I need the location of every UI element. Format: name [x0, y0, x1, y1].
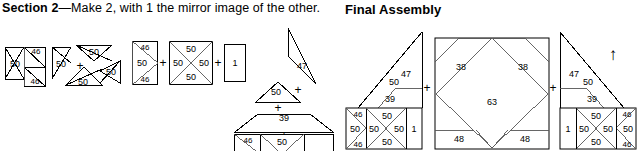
- final-right-50-bottom: 50: [591, 138, 601, 147]
- final-left-50-mid-left: 50: [369, 125, 379, 134]
- step4-row-50-mid-right: 50: [291, 151, 301, 152]
- final-left-46-top: 46: [354, 110, 363, 119]
- final-assembly-heading: Final Assembly: [345, 2, 441, 17]
- final-center-geometry: [434, 28, 550, 151]
- final-left-50-top: 50: [382, 112, 392, 121]
- final-right-unit: 47 50 39 1 50 50 50 50 46 50 46: [558, 30, 638, 151]
- step4-row-50-top: 50: [277, 138, 287, 147]
- step2-label-50-bottom: 50: [78, 78, 88, 87]
- step2-pinwheel-unit: 50 50 50 50 +: [50, 39, 122, 87]
- final-center-38-right: 38: [518, 63, 528, 72]
- step2-label-50-top: 50: [89, 48, 99, 57]
- final-right-50-top: 50: [591, 112, 601, 121]
- step4-plus-a: +: [294, 84, 301, 96]
- step1-label-46-bottom: 46: [31, 77, 40, 86]
- step3-a-label-46-top: 46: [141, 43, 150, 52]
- final-left-unit: 47 50 39 46 50 46 50 50 50 50 1: [344, 30, 424, 151]
- step3-b-label-50-left: 50: [173, 59, 183, 68]
- final-center-48-left: 48: [454, 135, 464, 144]
- step1-hst-unit: 46 50 46: [4, 39, 48, 87]
- final-right-46-bottom: 46: [623, 140, 632, 149]
- step3-plus-1: +: [159, 57, 166, 69]
- final-plus-left: +: [423, 82, 430, 94]
- step3-a-label-46-bottom: 46: [141, 75, 150, 84]
- step4-row-46-top: 46: [244, 136, 253, 145]
- final-center-48-right: 48: [520, 135, 530, 144]
- step2-label-50-right: 50: [106, 68, 116, 77]
- section-heading: Section 2—Make 2, with 1 the mirror imag…: [2, 1, 332, 16]
- final-right-50-right: 50: [623, 125, 633, 134]
- up-arrow-icon: ↑: [609, 46, 618, 63]
- step3-b-label-50-right: 50: [199, 59, 209, 68]
- final-right-label-50-tri: 50: [583, 78, 593, 87]
- step4-row-50-mid-left: 50: [261, 151, 271, 152]
- final-right-50-mid-left: 50: [579, 125, 589, 134]
- step4-triangle-50: [232, 80, 336, 110]
- section-heading-bold: Section 2: [2, 1, 58, 15]
- final-plus-right: +: [549, 82, 556, 94]
- step3-b-label-50-bottom: 50: [186, 73, 196, 82]
- step2-plus-operator: +: [76, 60, 83, 72]
- final-center-38-left: 38: [456, 63, 466, 72]
- step3-plus-2: +: [214, 57, 221, 69]
- step3-a-label-50: 50: [137, 59, 147, 68]
- step1-label-50: 50: [10, 60, 20, 69]
- final-left-label-50-tri: 50: [389, 78, 399, 87]
- final-right-50-mid-right: 50: [603, 125, 613, 134]
- final-right-label-39: 39: [587, 95, 597, 104]
- step1-label-46-top: 46: [32, 47, 41, 56]
- final-right-label-47: 47: [569, 70, 579, 79]
- step4-label-50: 50: [271, 88, 281, 97]
- step3-b-label-50-top: 50: [186, 45, 196, 54]
- step4-section-stack: 47 50 + + 39 + 46 50 46 50 50 50 50 1: [232, 26, 336, 151]
- final-center-63: 63: [487, 98, 497, 107]
- final-left-label-47: 47: [401, 70, 411, 79]
- final-center-unit: 38 38 63 48 48 22 50 22: [434, 28, 550, 151]
- step4-label-47: 47: [297, 62, 307, 71]
- final-left-50-bottom: 50: [382, 138, 392, 147]
- step4-label-39: 39: [279, 114, 289, 123]
- final-left-label-39: 39: [385, 95, 395, 104]
- step4-row-50-left: 50: [240, 151, 250, 152]
- step4-row-1: 1: [315, 151, 320, 152]
- section-heading-rest: —Make 2, with 1 the mirror image of the …: [58, 1, 320, 15]
- final-left-50-mid-right: 50: [394, 125, 404, 134]
- final-right-1: 1: [565, 125, 570, 134]
- final-left-50-left: 50: [350, 125, 360, 134]
- final-right-46-top: 46: [623, 110, 632, 119]
- step2-label-50-left: 50: [56, 60, 66, 69]
- final-left-46-bottom: 46: [354, 140, 363, 149]
- final-left-1: 1: [411, 125, 416, 134]
- step3-row-assembly: 46 50 46 + 50 50 50 50 + 1: [132, 41, 228, 87]
